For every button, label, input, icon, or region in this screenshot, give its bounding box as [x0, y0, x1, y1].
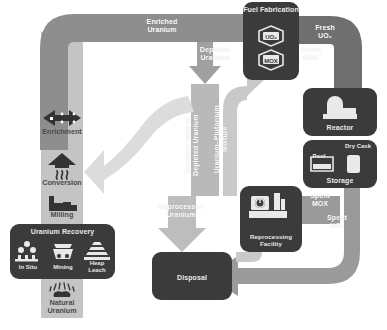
disposal-label: Disposal — [152, 274, 232, 282]
nuclear-fuel-cycle-diagram: Enrichment Conversion Milling — [0, 0, 387, 330]
disposal-box[interactable]: Disposal — [152, 252, 232, 300]
arrow-reprocessed-to-conversion — [84, 96, 194, 194]
label-deconversion-of-depleted-uranium: Deconversion of Depleted Uranium — [184, 90, 200, 200]
label-spent-mox: Spent MOX — [299, 192, 341, 208]
arrow-uranium-plutonium-mixture — [223, 60, 266, 196]
uranium-recovery-box[interactable]: Uranium Recovery — [10, 224, 115, 279]
conversion-heat-arrow-icon — [25, 150, 99, 180]
process-label-enrichment: Enrichment — [25, 128, 99, 136]
storage-box[interactable]: Dry Cask Pool Storage — [303, 140, 377, 188]
process-label-conversion: Conversion — [25, 179, 99, 187]
process-label-milling: Milling — [25, 211, 99, 219]
storage-icons — [303, 151, 377, 177]
process-label-natural-uranium: Natural Uranium — [25, 299, 99, 315]
mining-label: Mining — [46, 264, 80, 271]
reactor-label: Reactor — [303, 124, 377, 132]
reprocessing-facility-label: Reprocessing Facility — [240, 233, 302, 247]
label-fresh-mox: Fresh MOX — [290, 46, 332, 62]
arrow-reprocessing-waste-to-disposal — [236, 252, 262, 262]
label-depleted-uranium: Depleted Uranium — [186, 46, 244, 62]
in-situ-wells-icon — [15, 241, 38, 262]
reactor-box[interactable]: Reactor — [303, 88, 377, 136]
fuel-fabrication-title: Fuel Fabrication — [243, 2, 299, 14]
spent-fuel-pool-icon — [311, 157, 333, 171]
uo2-pellet-label: UO₂ — [243, 34, 299, 41]
label-spent-uo2: Spent UO₂ — [316, 214, 358, 230]
reprocessing-plant-icon — [240, 190, 302, 224]
label-enriched-uranium: Enriched Uranium — [124, 18, 200, 34]
label-fresh-uo2: Fresh UO₂ — [303, 24, 347, 40]
dry-cask-icon — [347, 155, 360, 173]
label-uranium-plutonium-mixture: Uranium–Plutonium Mixture — [213, 86, 229, 192]
reactor-containment-icon — [303, 92, 377, 122]
heap-leach-label: Heap Leach — [81, 260, 113, 273]
in-situ-label: In Situ — [12, 264, 44, 271]
centrifuge-arrows-icon — [25, 108, 99, 128]
label-reprocessed-uranium: Reprocessed Uranium — [144, 203, 218, 219]
heap-leach-icon — [84, 242, 110, 260]
uranium-recovery-title: Uranium Recovery — [10, 224, 115, 236]
storage-label: Storage — [303, 177, 377, 185]
dry-cask-label: Dry Cask — [339, 143, 377, 150]
fuel-fabrication-box[interactable]: Fuel Fabrication UO₂ MOX — [243, 2, 299, 80]
reprocessing-facility-box[interactable]: Reprocessing Facility — [240, 186, 302, 252]
